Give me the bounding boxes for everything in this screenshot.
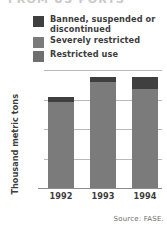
x-axis-line	[38, 188, 162, 189]
page-title: FROM US PORTS	[8, 0, 133, 4]
legend-label-banned: Banned, suspended or discontinued	[50, 15, 167, 34]
source-note: Source: FASE.	[114, 215, 165, 223]
chart-legend: Banned, suspended or discontinued Severe…	[33, 15, 167, 64]
legend-label-restricted-use: Restricted use	[50, 50, 118, 60]
x-tick-1992: 1992	[41, 191, 81, 201]
bar-segment-restricted-1992	[48, 102, 74, 188]
bar-segment-banned-1994	[132, 77, 158, 89]
x-tick-1994: 1994	[125, 191, 165, 201]
legend-item-severely-restricted: Severely restricted	[33, 36, 167, 48]
chart-page: FROM US PORTS Banned, suspended or disco…	[0, 0, 167, 231]
legend-swatch-severely-restricted	[33, 37, 44, 48]
legend-swatch-banned	[33, 16, 44, 27]
legend-item-restricted-use: Restricted use	[33, 50, 167, 62]
gridline-40	[44, 70, 162, 71]
bar-1993	[90, 77, 116, 188]
legend-item-banned: Banned, suspended or discontinued	[33, 15, 167, 34]
bar-1994	[132, 77, 158, 188]
y-axis-label: Thousand metric tons	[10, 94, 20, 195]
legend-swatch-restricted-use	[33, 51, 44, 62]
bar-segment-restricted-1993	[90, 82, 116, 188]
bar-1992	[48, 97, 74, 188]
x-tick-1993: 1993	[83, 191, 123, 201]
chart-title-cropped: FROM US PORTS	[8, 0, 133, 4]
plot-area: Thousand metric tons 40 30 20 10 0 1992	[44, 70, 162, 188]
bar-segment-restricted-1994	[132, 89, 158, 188]
legend-label-severely-restricted: Severely restricted	[50, 36, 140, 46]
